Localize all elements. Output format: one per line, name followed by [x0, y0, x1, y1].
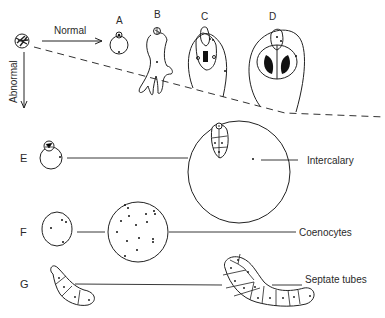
nuclei: [116, 204, 156, 257]
normal-arrow: Normal: [42, 25, 102, 41]
svg-text:A: A: [116, 15, 123, 26]
svg-text:E: E: [20, 152, 27, 164]
development-diagram: Normal Abnormal A B C D: [0, 0, 385, 318]
abnormal-arrow: Abnormal: [8, 52, 24, 108]
svg-text:G: G: [20, 278, 29, 290]
svg-text:C: C: [201, 11, 208, 22]
origin-spore: [15, 34, 29, 48]
abnormal-label: Abnormal: [8, 60, 19, 103]
intercalary-label: Intercalary: [307, 155, 354, 166]
stage-c: C: [188, 11, 226, 97]
svg-text:F: F: [20, 226, 27, 238]
row-g: G Septate tubes: [20, 254, 367, 306]
coenocytes-label: Coenocytes: [299, 227, 352, 238]
dashed-boundary: [34, 47, 385, 117]
stage-a: A: [110, 15, 128, 54]
row-f: F Coenocytes: [20, 202, 352, 262]
svg-text:D: D: [269, 11, 276, 22]
normal-label: Normal: [54, 25, 86, 36]
septate-tubes-label: Septate tubes: [305, 274, 367, 285]
svg-text:B: B: [154, 9, 161, 20]
stage-d: D: [249, 11, 305, 112]
row-e: E Intercalary: [20, 121, 354, 223]
